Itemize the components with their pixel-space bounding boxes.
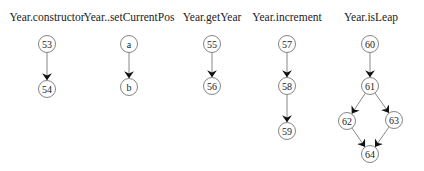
graph-node: 56 xyxy=(204,78,221,95)
graph-title: Year..setCurrentPos xyxy=(84,11,175,23)
cfg-diagram: Year.constructorYear..setCurrentPosYear.… xyxy=(0,0,424,171)
node-label: 57 xyxy=(282,39,292,50)
node-label: a xyxy=(127,39,132,50)
graph-title: Year.increment xyxy=(252,11,322,23)
graph-node: 55 xyxy=(204,36,221,53)
node-label: 63 xyxy=(389,115,399,126)
edge-arrow xyxy=(352,93,365,113)
graph-node: 57 xyxy=(279,36,296,53)
node-label: 56 xyxy=(207,81,217,92)
graph-node: 54 xyxy=(39,81,56,98)
graph-nodes: 5354ab55565758596061626364 xyxy=(39,36,403,163)
node-label: 53 xyxy=(42,39,52,50)
node-label: 58 xyxy=(282,81,292,92)
graph-node: a xyxy=(121,36,138,53)
graph-title: Year.isLeap xyxy=(344,11,398,24)
node-label: 59 xyxy=(282,126,292,137)
graph-node: 58 xyxy=(279,78,296,95)
graph-edges xyxy=(47,53,389,147)
edge-arrow xyxy=(352,128,365,147)
graph-title: Year.constructor xyxy=(9,11,84,23)
graph-node: 62 xyxy=(339,113,356,130)
node-label: 54 xyxy=(42,84,52,95)
node-label: b xyxy=(127,82,132,93)
graph-node: b xyxy=(121,79,138,96)
edge-arrow xyxy=(375,93,389,113)
graph-title: Year.getYear xyxy=(183,11,242,24)
graph-node: 59 xyxy=(279,123,296,140)
graph-node: 63 xyxy=(386,112,403,129)
graph-titles: Year.constructorYear..setCurrentPosYear.… xyxy=(9,11,398,24)
graph-node: 61 xyxy=(362,78,379,95)
graph-node: 64 xyxy=(362,146,379,163)
node-label: 62 xyxy=(342,116,352,127)
edge-arrow xyxy=(375,127,389,147)
graph-node: 53 xyxy=(39,36,56,53)
node-label: 60 xyxy=(365,39,375,50)
node-label: 64 xyxy=(365,149,375,160)
graph-node: 60 xyxy=(362,36,379,53)
node-label: 61 xyxy=(365,81,375,92)
node-label: 55 xyxy=(207,39,217,50)
